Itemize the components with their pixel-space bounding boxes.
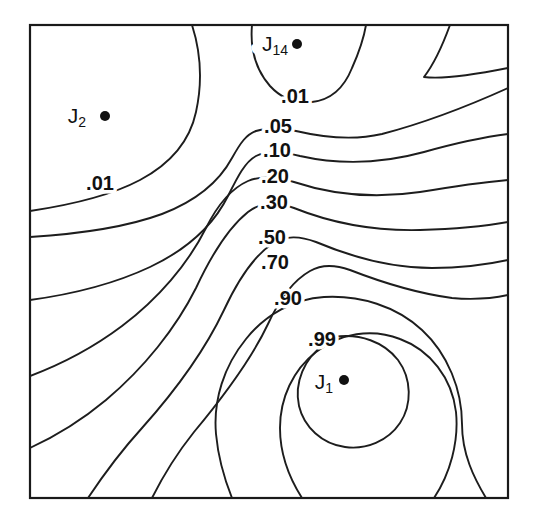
- marker-dot-j14: [292, 39, 302, 49]
- contour-plot-canvas: .01.01.01.01.05.05.10.10.20.20.30.30.50.…: [0, 0, 539, 522]
- marker-label-subscript: 2: [78, 114, 86, 130]
- marker-label-subscript: 1: [325, 380, 333, 396]
- contour-level-label-50: .50: [258, 226, 286, 248]
- contour-level-label-70: .70: [261, 251, 289, 273]
- marker-dot-j2: [100, 111, 110, 121]
- contour-level-label-99: .99: [308, 328, 336, 350]
- contour-level-label-01: .01: [86, 172, 114, 194]
- marker-dot-j1: [339, 375, 349, 385]
- contour-plot-root: .01.01.01.01.05.05.10.10.20.20.30.30.50.…: [0, 0, 539, 522]
- contour-level-label-30: .30: [260, 191, 288, 213]
- contour-level-label-20: .20: [261, 165, 289, 187]
- contour-level-label-05: .05: [264, 115, 292, 137]
- contour-level-label-01: .01: [281, 85, 309, 107]
- contour-level-label-10: .10: [263, 139, 291, 161]
- contour-level-label-90: .90: [274, 287, 302, 309]
- marker-label-subscript: 14: [272, 42, 288, 58]
